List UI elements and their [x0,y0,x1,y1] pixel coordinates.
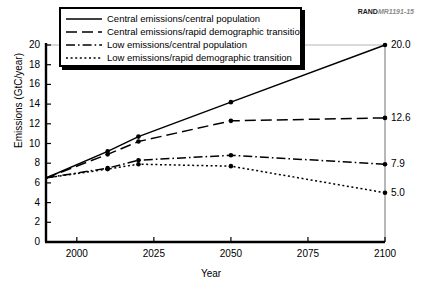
data-point-marker [136,134,141,139]
data-point-marker [383,43,388,48]
y-tick-label: 0 [16,236,40,247]
data-point-marker [229,153,234,158]
data-point-marker [105,152,110,157]
series-end-label: 5.0 [391,187,405,198]
legend-item[interactable]: Central emissions/rapid demographic tran… [66,25,296,38]
legend-line-swatch [66,26,102,38]
series-end-label: 7.9 [391,158,405,169]
legend-item-label: Low emissions/rapid demographic transiti… [107,52,292,64]
data-point-marker [229,119,234,124]
data-point-marker [136,162,141,167]
legend-item[interactable]: Central emissions/central population [66,12,296,25]
y-tick-label: 4 [16,197,40,208]
y-tick-label: 6 [16,177,40,188]
x-axis-title: Year [0,268,422,279]
y-tick-label: 2 [16,216,40,227]
data-point-marker [136,139,141,144]
legend-line-swatch [66,39,102,51]
x-tick-label: 2025 [134,248,174,259]
legend-line-swatch [66,52,102,64]
legend-item[interactable]: Low emissions/rapid demographic transiti… [66,51,296,64]
data-point-marker [229,100,234,105]
series-line [46,118,385,178]
series-end-label: 12.6 [391,112,410,123]
chart-figure: RANDMR1191-15 02468101214161820200020252… [0,0,422,288]
legend-item[interactable]: Low emissions/central population [66,38,296,51]
series-end-label: 20.0 [391,39,410,50]
x-tick-label: 2050 [211,248,251,259]
x-tick-label: 2075 [288,248,328,259]
data-point-marker [383,162,388,167]
chart-legend: Central emissions/central populationCent… [59,7,302,67]
y-axis-title: Emissions (GtC/year) [13,26,24,176]
legend-item-label: Central emissions/central population [107,13,260,25]
series-line [46,164,385,193]
x-tick-label: 2000 [57,248,97,259]
data-point-marker [383,190,388,195]
data-point-marker [136,158,141,163]
data-point-marker [105,167,110,172]
x-tick-label: 2100 [365,248,405,259]
data-point-marker [383,116,388,121]
data-point-marker [229,164,234,169]
legend-line-swatch [66,13,102,25]
legend-item-label: Low emissions/central population [107,39,247,51]
legend-item-label: Central emissions/rapid demographic tran… [107,26,305,38]
